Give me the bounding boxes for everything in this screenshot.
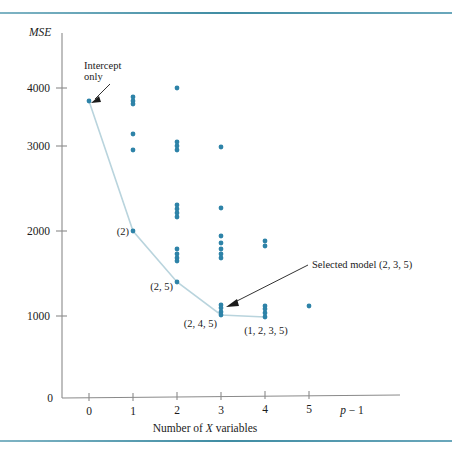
data-point	[219, 256, 224, 261]
x-axis-end-label: p − 1	[339, 404, 364, 417]
data-point	[219, 241, 224, 246]
intercept-only-line2: only	[84, 71, 103, 82]
annotation-intercept-only: Intercept only	[84, 60, 121, 103]
selected-model-leader-line	[233, 265, 308, 303]
data-point	[175, 86, 180, 91]
data-point	[307, 304, 312, 309]
y-tick-label-3000: 3000	[27, 140, 50, 152]
data-point	[175, 215, 180, 220]
x-axis-title: Number of X variables	[153, 422, 258, 434]
point-label-2-4-5: (2, 4, 5)	[184, 318, 218, 330]
figure-container: 4000 3000 2000 1000 0 0 1 2 3 4 5 MSE Nu…	[0, 0, 452, 454]
intercept-only-leader-line	[95, 84, 110, 99]
point-label-1-2-3-5: (1, 2, 3, 5)	[244, 325, 288, 337]
point-label-2: (2)	[117, 226, 130, 238]
x-axis-line	[62, 395, 400, 398]
y-tick-label-4000: 4000	[27, 82, 50, 94]
y-axis-title: MSE	[28, 26, 51, 38]
data-point	[219, 247, 224, 252]
data-point	[175, 148, 180, 153]
data-point	[131, 102, 136, 107]
data-point	[175, 247, 180, 252]
data-point	[263, 244, 268, 249]
data-point	[263, 239, 268, 244]
data-points-group	[87, 86, 312, 320]
y-tick-label-1000: 1000	[27, 310, 50, 322]
p-minus-one-rest: − 1	[346, 404, 364, 416]
data-point	[219, 206, 224, 211]
data-point	[175, 280, 180, 285]
intercept-only-line1: Intercept	[84, 60, 121, 71]
data-point	[175, 259, 180, 264]
plot-svg: 4000 3000 2000 1000 0 0 1 2 3 4 5 MSE Nu…	[0, 0, 452, 454]
selected-model-arrowhead	[226, 299, 239, 307]
x-tick-label-3: 3	[218, 404, 224, 416]
axis-titles-group: MSE Number of X variables p − 1	[28, 26, 364, 434]
selected-model-label: Selected model (2, 3, 5)	[312, 259, 413, 271]
data-point	[219, 234, 224, 239]
x-axis-title-prefix: Number of	[153, 422, 206, 434]
annotation-selected-model: Selected model (2, 3, 5)	[226, 259, 413, 307]
data-point	[87, 99, 92, 104]
y-tick-label-0: 0	[47, 392, 53, 404]
data-point	[219, 145, 224, 150]
data-point	[131, 132, 136, 137]
x-tick-label-0: 0	[86, 405, 92, 417]
x-tick-label-1: 1	[130, 405, 136, 417]
data-point	[131, 229, 136, 234]
point-label-2-5: (2, 5)	[150, 281, 173, 293]
y-tick-label-2000: 2000	[27, 225, 50, 237]
intercept-only-arrowhead	[91, 96, 101, 103]
x-tick-label-4: 4	[262, 403, 268, 415]
axes-group	[56, 33, 400, 401]
x-axis-title-suffix: variables	[213, 422, 258, 434]
data-point	[219, 313, 224, 318]
data-point	[131, 148, 136, 153]
x-tick-label-2: 2	[174, 404, 180, 416]
data-point	[263, 315, 268, 320]
x-tick-label-5: 5	[306, 403, 312, 415]
tick-labels-group: 4000 3000 2000 1000 0 0 1 2 3 4 5	[27, 82, 312, 417]
